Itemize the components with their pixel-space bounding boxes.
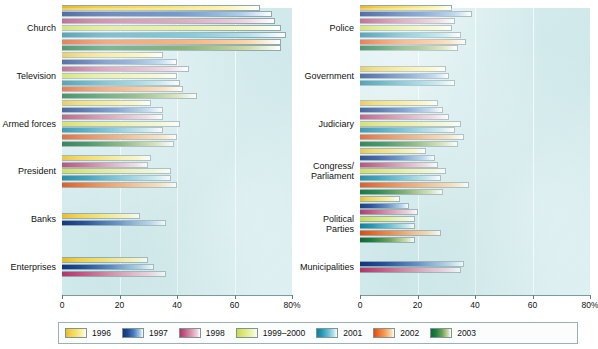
bar xyxy=(360,5,452,11)
bar xyxy=(360,196,400,202)
bar-fill xyxy=(360,156,434,160)
x-axis-tick xyxy=(292,295,293,299)
bar-fill xyxy=(62,176,170,180)
bar xyxy=(360,25,452,31)
bar-fill xyxy=(62,94,196,98)
bar-fill xyxy=(62,128,162,132)
bar xyxy=(360,230,441,236)
bar-fill xyxy=(62,67,188,71)
plot-area-right xyxy=(360,8,590,295)
bar xyxy=(360,267,461,273)
legend-item[interactable]: 2001 xyxy=(316,328,362,338)
x-axis-tick xyxy=(475,295,476,299)
legend-swatch-fill xyxy=(123,329,143,337)
legend-swatch-fill xyxy=(237,329,257,337)
bar xyxy=(62,114,163,120)
x-axis-tick-label: 0 xyxy=(358,300,363,310)
bar xyxy=(360,175,441,181)
bar xyxy=(360,162,438,168)
bar-fill xyxy=(62,214,139,218)
bar-fill xyxy=(360,197,399,201)
bar xyxy=(62,100,151,106)
legend-swatch xyxy=(122,328,144,338)
bar-fill xyxy=(62,272,165,276)
x-axis-tick xyxy=(177,295,178,299)
legend-item[interactable]: 2002 xyxy=(373,328,419,338)
legend-label: 2002 xyxy=(400,328,419,338)
bar-fill xyxy=(360,101,437,105)
bar-fill xyxy=(360,190,442,194)
bar-fill xyxy=(360,135,463,139)
category-label: Police xyxy=(298,23,354,33)
bar-fill xyxy=(360,12,471,16)
bar-fill xyxy=(62,108,162,112)
bar xyxy=(360,114,449,120)
bar xyxy=(360,39,466,45)
bar-fill xyxy=(360,268,460,272)
bar xyxy=(360,223,415,229)
bar-fill xyxy=(62,81,179,85)
plot-area-left xyxy=(62,8,292,295)
legend-swatch-fill xyxy=(431,329,451,337)
bar-fill xyxy=(360,183,468,187)
legend-swatch-fill xyxy=(66,329,86,337)
bar-fill xyxy=(360,33,460,37)
category-label: Church xyxy=(0,23,56,33)
legend-item[interactable]: 1998 xyxy=(179,328,225,338)
chart-panel-left: 020406080%ChurchTelevisionArmed forcesPr… xyxy=(0,0,300,318)
bar xyxy=(360,148,426,154)
bar xyxy=(360,73,449,79)
bar-fill xyxy=(360,122,460,126)
bar-fill xyxy=(62,163,147,167)
bar xyxy=(360,182,469,188)
bar-fill xyxy=(360,262,463,266)
bar-fill xyxy=(360,67,445,71)
legend-swatch-fill xyxy=(317,329,337,337)
legend-item[interactable]: 2003 xyxy=(430,328,476,338)
bar xyxy=(62,168,171,174)
bar-fill xyxy=(62,12,271,16)
x-axis-tick-label: 40 xyxy=(470,300,479,310)
bar xyxy=(62,45,281,51)
category-label: Judiciary xyxy=(298,119,354,129)
bar-fill xyxy=(62,40,280,44)
bar-fill xyxy=(360,19,454,23)
bar xyxy=(360,134,464,140)
legend-item[interactable]: 1996 xyxy=(65,328,111,338)
category-label: Government xyxy=(298,71,354,81)
x-axis-tick-label: 40 xyxy=(172,300,181,310)
legend-item[interactable]: 1997 xyxy=(122,328,168,338)
gridline xyxy=(475,8,476,295)
x-axis-tick xyxy=(120,295,121,299)
bar xyxy=(62,257,148,263)
bar-fill xyxy=(62,87,182,91)
bar xyxy=(360,261,464,267)
legend-item[interactable]: 1999–2000 xyxy=(236,328,306,338)
bar xyxy=(360,216,415,222)
bar-fill xyxy=(360,149,425,153)
legend-swatch-fill xyxy=(374,329,394,337)
bar-fill xyxy=(62,53,162,57)
x-axis-tick xyxy=(360,295,361,299)
bar xyxy=(62,220,166,226)
category-label: Armed forces xyxy=(0,119,56,129)
bar-fill xyxy=(360,204,408,208)
legend-swatch xyxy=(65,328,87,338)
bar-fill xyxy=(62,183,176,187)
bar-fill xyxy=(360,163,437,167)
bar xyxy=(62,271,166,277)
legend-swatch-fill xyxy=(180,329,200,337)
bar xyxy=(360,141,458,147)
bar xyxy=(360,32,461,38)
chart-figure: 020406080%ChurchTelevisionArmed forcesPr… xyxy=(0,0,598,349)
bar xyxy=(62,25,281,31)
bar-fill xyxy=(360,26,451,30)
bar-fill xyxy=(62,19,274,23)
gridline xyxy=(292,8,293,295)
legend-label: 2001 xyxy=(343,328,362,338)
bar-fill xyxy=(360,224,414,228)
bar xyxy=(62,127,163,133)
bar xyxy=(62,18,275,24)
bar-fill xyxy=(62,265,153,269)
bar xyxy=(62,80,180,86)
